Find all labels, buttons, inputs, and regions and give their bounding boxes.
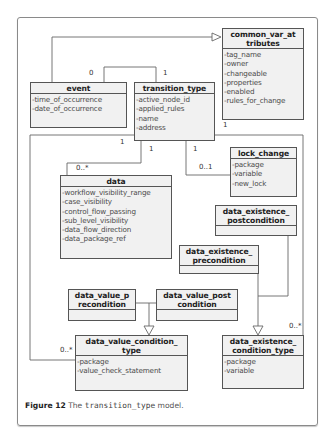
- class-data-existence-postcondition: data_existence_ postcondition: [215, 205, 297, 236]
- multiplicity-transition-lock: 1: [193, 145, 197, 153]
- attribute: -date_of_occurrence: [32, 104, 125, 113]
- class-attributes: -active_node_id -applied_rules -name -ad…: [135, 94, 214, 134]
- figure-caption: Figure 12 The transition_type model.: [25, 401, 184, 410]
- figure-label: Figure 12: [25, 401, 66, 410]
- generalization-event-common: [52, 37, 212, 82]
- multiplicity-transition-dvct: 1: [120, 138, 124, 146]
- class-name: transition_type: [135, 83, 214, 94]
- attribute: -case_visibility: [62, 197, 170, 206]
- class-name: common_var_at tributes: [223, 29, 303, 49]
- attribute: -value_check_statement: [77, 366, 186, 375]
- attribute: -new_lock: [232, 179, 295, 188]
- class-attributes: -package -variable -new_lock: [231, 159, 296, 190]
- attribute: -workflow_visibility_range: [62, 188, 170, 197]
- attribute: -package: [232, 160, 295, 169]
- caption-text-after: model.: [158, 401, 184, 410]
- class-attributes: -time_of_occurrence -date_of_occurrence: [31, 94, 126, 116]
- class-name: event: [31, 83, 126, 94]
- class-transition-type: transition_type -active_node_id -applied…: [134, 82, 215, 141]
- multiplicity-transition-end: 1: [163, 69, 167, 77]
- class-name: lock_change: [231, 148, 296, 159]
- attribute: -data_flow_direction: [62, 225, 170, 234]
- association-event-transition: [104, 67, 156, 82]
- caption-code: transition_type: [85, 401, 155, 410]
- attribute: -owner: [224, 59, 302, 68]
- attribute: -tag_name: [224, 50, 302, 59]
- attribute: -name: [136, 114, 213, 123]
- multiplicity-common-var: 1: [223, 121, 227, 129]
- class-name: data_existence_ precondition: [180, 246, 258, 266]
- attribute: -properties: [224, 78, 302, 87]
- class-data-existence-condition-type: data_existence_ condition_type -package …: [222, 335, 304, 389]
- generalization-arrowhead-dect: [253, 326, 263, 335]
- class-name: data_value_p recondition: [69, 290, 135, 310]
- attribute: -data_package_ref: [62, 234, 170, 243]
- attribute: -variable: [232, 169, 295, 178]
- class-attributes: -package -variable: [223, 356, 303, 378]
- caption-text-before: The: [68, 401, 82, 410]
- attribute: -time_of_occurrence: [32, 95, 125, 104]
- attribute: -control_flow_passing: [62, 207, 170, 216]
- generalization-post-stem: [258, 235, 288, 296]
- attribute: -enabled: [224, 87, 302, 96]
- class-common-var-attributes: common_var_at tributes -tag_name -owner …: [222, 28, 304, 120]
- generalization-arrowhead-dvct: [144, 326, 154, 335]
- class-data-value-postcondition: data_value_post condition: [156, 289, 238, 321]
- multiplicity-dvct-end: 0..*: [60, 346, 72, 354]
- generalization-arrowhead-common: [212, 33, 221, 41]
- attribute: -sub_level_visibility: [62, 216, 170, 225]
- attribute: -variable: [224, 366, 302, 375]
- attribute: -changeable: [224, 69, 302, 78]
- attribute: -active_node_id: [136, 95, 213, 104]
- class-name: data: [61, 176, 171, 187]
- multiplicity-event-end: 0: [89, 69, 93, 77]
- class-event: event -time_of_occurrence -date_of_occur…: [30, 82, 127, 128]
- class-data-value-condition-type: data_value_condition_ type -package -val…: [75, 335, 188, 391]
- class-attributes: -package -value_check_statement: [76, 356, 187, 378]
- multiplicity-transition-data: 1: [149, 145, 153, 153]
- multiplicity-lock-end: 0..1: [199, 163, 212, 171]
- attribute: -address: [136, 123, 213, 132]
- multiplicity-dect-end: 0..*: [289, 322, 301, 330]
- class-attributes: -tag_name -owner -changeable -properties…: [223, 49, 303, 108]
- class-attributes: -workflow_visibility_range -case_visibil…: [61, 187, 171, 246]
- attribute: -rules_for_change: [224, 96, 302, 105]
- class-data-value-precondition: data_value_p recondition: [68, 289, 136, 321]
- class-data: data -workflow_visibility_range -case_vi…: [60, 175, 172, 259]
- attribute: -package: [77, 357, 186, 366]
- multiplicity-data-end: 0..*: [76, 164, 88, 172]
- class-name: data_value_post condition: [157, 290, 237, 310]
- attribute: -applied_rules: [136, 104, 213, 113]
- attribute: -package: [224, 357, 302, 366]
- class-name: data_value_condition_ type: [76, 336, 187, 356]
- class-data-existence-precondition: data_existence_ precondition: [179, 245, 259, 274]
- class-name: data_existence_ postcondition: [216, 206, 296, 226]
- class-name: data_existence_ condition_type: [223, 336, 303, 356]
- class-lock-change: lock_change -package -variable -new_lock: [230, 147, 297, 197]
